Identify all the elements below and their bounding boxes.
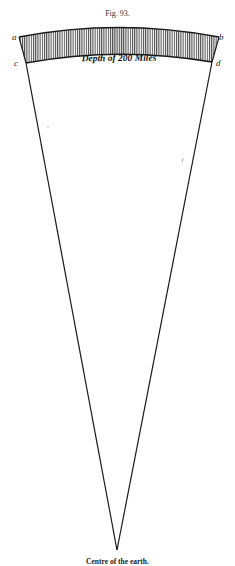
band-label: Depth of 200 Miles — [81, 53, 157, 64]
label-c: c — [14, 58, 18, 68]
label-b: b — [219, 32, 224, 42]
figure-caption: Centre of the earth. — [0, 557, 235, 566]
right-radius — [117, 62, 212, 550]
label-a: a — [12, 32, 17, 42]
left-radius — [26, 63, 117, 550]
earth-section-diagram: Depth of 200 Miles a b c d — [0, 0, 235, 566]
label-d: d — [216, 58, 221, 68]
speck — [182, 158, 183, 162]
speck — [47, 126, 48, 127]
